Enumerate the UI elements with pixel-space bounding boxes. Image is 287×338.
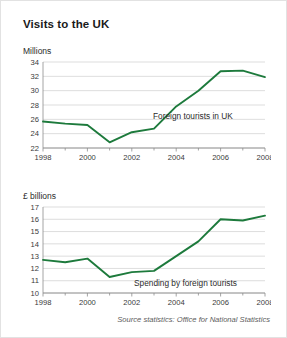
spending-chart: 1011121314151617199820002002200420062008 [23,202,271,310]
y-axis-tick-label: 16 [31,215,39,224]
chart-1-unit-label: Millions [23,46,51,56]
spending-chart-annotation: Spending by foreign tourists [134,278,237,288]
spending-chart-series-line [43,216,265,277]
x-axis-tick-label: 2008 [257,298,271,307]
visits-chart-svg: 22242628303234199820002002200420062008 [23,57,271,165]
x-axis-tick-label: 2008 [257,153,271,162]
y-axis-tick-label: 11 [31,276,39,285]
x-axis-tick-label: 2002 [123,298,140,307]
x-axis-tick-label: 1998 [35,153,52,162]
y-axis-tick-label: 32 [31,72,39,81]
x-axis-tick-label: 2004 [168,298,185,307]
x-axis-tick-label: 1998 [35,298,52,307]
y-axis-tick-label: 10 [31,289,39,298]
chart-card: Visits to the UK Millions 22242628303234… [0,0,287,338]
y-axis-tick-label: 24 [31,129,39,138]
x-axis-tick-label: 2004 [168,153,185,162]
page-title: Visits to the UK [23,18,109,30]
y-axis-tick-label: 15 [31,227,39,236]
x-axis-tick-label: 2000 [79,153,96,162]
source-attribution: Source statistics: Office for National S… [117,315,270,324]
y-axis-tick-label: 28 [31,101,39,110]
y-axis-tick-label: 22 [31,144,39,153]
y-axis-tick-label: 12 [31,264,39,273]
y-axis-tick-label: 17 [31,203,39,212]
y-axis-tick-label: 30 [31,86,39,95]
x-axis-tick-label: 2000 [79,298,96,307]
x-axis-tick-label: 2002 [123,153,140,162]
chart-2-unit-label: £ billions [23,191,56,201]
x-axis-tick-label: 2006 [212,153,229,162]
visits-chart-annotation: Foreign tourists in UK [153,111,233,121]
y-axis-tick-label: 26 [31,115,39,124]
y-axis-tick-label: 34 [31,58,39,67]
visits-chart: 22242628303234199820002002200420062008 [23,57,271,165]
x-axis-tick-label: 2006 [212,298,229,307]
y-axis-tick-label: 14 [31,240,39,249]
y-axis-tick-label: 13 [31,252,39,261]
spending-chart-svg: 1011121314151617199820002002200420062008 [23,202,271,310]
visits-chart-series-line [43,71,265,143]
